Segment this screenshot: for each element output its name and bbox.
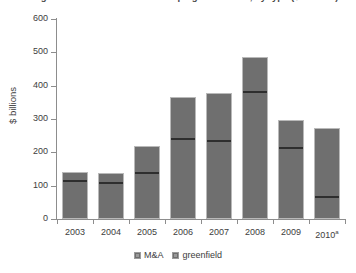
bar-segment-divider [279, 147, 303, 149]
x-axis-tick [201, 219, 202, 224]
bar-segment-divider [207, 140, 231, 142]
x-axis-tick [165, 219, 166, 224]
x-axis-tick [309, 219, 310, 224]
x-axis-tick-label: 2007 [199, 227, 239, 237]
y-axis-labels: 6005004003002001000 [20, 0, 48, 273]
legend-item-0[interactable]: M&A [134, 250, 164, 260]
x-axis-tick-label: 2008 [235, 227, 275, 237]
y-axis-tick [51, 52, 56, 53]
y-axis-tick-label: 0 [22, 214, 48, 223]
bar-2008 [242, 57, 268, 219]
bar-chart: $ billions 6005004003002001000 200320042… [0, 0, 356, 273]
y-axis-tick-label: 500 [22, 47, 48, 56]
bar-segment-divider [135, 172, 159, 174]
bar-segment-divider [63, 180, 87, 182]
bar-2010 [314, 128, 340, 219]
y-axis-tick-label: 300 [22, 114, 48, 123]
legend-swatch-icon [134, 252, 141, 259]
y-axis-tick [51, 86, 56, 87]
bar-segment-divider [171, 138, 195, 140]
bar-segment-divider [315, 196, 339, 198]
y-axis-tick [51, 119, 56, 120]
x-axis-tick [129, 219, 130, 224]
x-axis-tick-label: 2004 [91, 227, 131, 237]
x-axis-tick-label: 2003 [55, 227, 95, 237]
y-axis-tick [51, 186, 56, 187]
legend-item-1[interactable]: greenfield [172, 250, 222, 260]
x-axis-tick-label: 2010a [307, 227, 347, 240]
x-axis-tick [345, 219, 346, 224]
y-axis-tick-label: 200 [22, 147, 48, 156]
x-axis-tick [93, 219, 94, 224]
x-axis-tick-label: 2009 [271, 227, 311, 237]
y-axis-tick [51, 19, 56, 20]
y-axis-tick-label: 100 [22, 181, 48, 190]
bar-2003 [62, 172, 88, 219]
bar-2006 [170, 97, 196, 219]
bar-segment-divider [243, 91, 267, 93]
y-axis-tick-label: 600 [22, 14, 48, 23]
bar-2004 [98, 173, 124, 219]
legend-swatch-icon [172, 252, 179, 259]
x-axis-tick [57, 219, 58, 224]
y-axis-tick [51, 219, 56, 220]
bar-2007 [206, 93, 232, 219]
chart-legend: M&Agreenfield [0, 250, 356, 260]
y-axis-title: $ billions [7, 87, 18, 124]
x-axis-tick-label: 2006 [163, 227, 203, 237]
legend-label: greenfield [182, 250, 222, 260]
bar-segment-divider [99, 182, 123, 184]
y-axis-tick-label: 400 [22, 81, 48, 90]
bar-2005 [134, 146, 160, 219]
x-axis-tick [237, 219, 238, 224]
y-axis-tick [51, 152, 56, 153]
bar-2009 [278, 120, 304, 219]
x-axis-tick-label: 2005 [127, 227, 167, 237]
legend-label: M&A [144, 250, 164, 260]
plot-area [57, 19, 345, 219]
x-axis-tick [273, 219, 274, 224]
